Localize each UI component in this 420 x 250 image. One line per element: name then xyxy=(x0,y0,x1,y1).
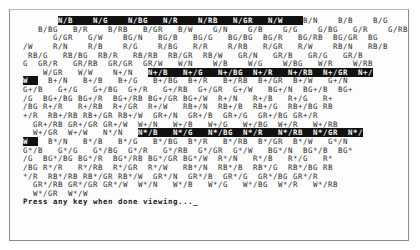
attribute-text: W*/GR W*/W xyxy=(23,189,88,198)
press-any-key-prompt: Press any key when done viewing..._ xyxy=(23,198,413,207)
attribute-text: */R RB*/RB RB*/GR RB*/W GR*/N GR*/B GR*/… xyxy=(23,172,318,181)
highlighted-attribute-text: W xyxy=(23,76,38,85)
attribute-text: GR+/RB GR+/GR GR+/W W+/N W+/B W+/G W+/BG… xyxy=(23,120,338,129)
attribute-text: B+/N B+/B B+/G B+/BG B+/R B+/RB B+/GR B+… xyxy=(38,76,348,85)
attribute-text: W/GR W/W N+/N xyxy=(23,68,148,77)
attribute-text: W+/GR W+/W N*/N xyxy=(23,128,138,137)
attribute-text: GR*/RB GR*/GR GR*/W W*/N W*/B W*/G W*/BG… xyxy=(23,180,338,189)
highlighted-attribute-text: N*/B N*/G N*/BG N*/R N*/RB N*/GR N*/ xyxy=(138,128,363,137)
attribute-text: G+/B G+/G G+/BG G+/R G+/RB G+/GR G+/W BG… xyxy=(23,85,353,94)
attribute-text: +/R RB+/RB RB+/GR RB+/W GR+/N GR+/B GR+/… xyxy=(23,111,318,120)
attribute-text: /W R/N R/B R/G R/BG R/R R/RB R/GR R/W RB… xyxy=(23,42,388,51)
attribute-text: B/BG B/R B/RB B/GR B/W G/N G/B G/G G/BG … xyxy=(23,25,408,34)
attribute-text: B/N B/B B/G xyxy=(303,16,408,25)
attribute-text: /BG R+/R R+/RB R+/GR R+/W RB+/N RB+/B RB… xyxy=(23,102,333,111)
highlighted-attribute-text: N/B N/G N/BG N/R N/RB N/GR N/W xyxy=(58,16,303,25)
highlighted-attribute-text: W xyxy=(23,137,38,146)
color-attribute-grid: N/B N/G N/BG N/R N/RB N/GR N/W B/N B/B B… xyxy=(23,17,413,198)
attribute-text: /G BG+/BG BG+/R BG+/RB BG+/GR BG+/W R+/N… xyxy=(23,94,333,103)
attribute-text: B*/N B*/B B*/G B*/BG B*/R B*/RB B*/GR B*… xyxy=(38,137,348,146)
attribute-text: G*/B G*/G G*/BG G*/R G*/RB G*/GR G*/W BG… xyxy=(23,146,353,155)
terminal-window: N/B N/G N/BG N/R N/RB N/GR N/W B/N B/B B… xyxy=(9,9,409,241)
attribute-text: /BG R*/R R*/RB R*/GR R*/W RB*/N RB*/B RB… xyxy=(23,163,333,172)
attribute-text: G/GR G/W BG/N BG/B BG/G BG/BG BG/R BG/RB… xyxy=(23,33,378,42)
attribute-text: RB/G RB/BG RB/R RB/RB RB/GR RB/W GR/N GR… xyxy=(23,51,363,60)
attribute-text: /G BG*/BG BG*/R BG*/RB BG*/GR BG*/W R*/N… xyxy=(23,154,333,163)
highlighted-attribute-text: N+/B N+/G N+/BG N+/R N+/RB N+/GR N+/ xyxy=(148,68,373,77)
attribute-text: G GR/R GR/RB GR/GR GR/W W/N W/B W/G W/BG… xyxy=(23,59,373,68)
terminal-screen[interactable]: N/B N/G N/BG N/R N/RB N/GR N/W B/N B/B B… xyxy=(23,17,413,207)
attribute-text xyxy=(23,16,58,25)
